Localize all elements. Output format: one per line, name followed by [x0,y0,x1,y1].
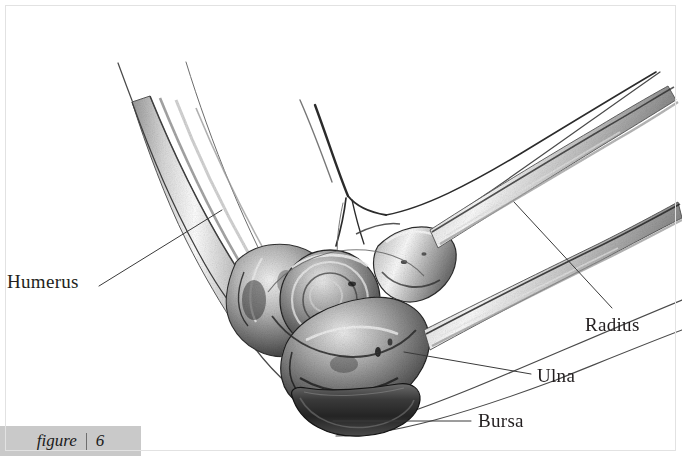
figure-caption-number: 6 [96,431,105,451]
figure-caption-band: figure 6 [0,426,141,456]
label-radius: Radius [585,315,640,334]
figure-caption-word: figure [37,431,77,451]
ulna-bone [281,202,682,415]
label-ulna: Ulna [537,366,575,385]
elbow-crease [300,72,656,262]
label-bursa: Bursa [478,411,524,430]
radius-bone [374,86,679,302]
elbow-anatomy-illustration [0,0,682,456]
label-humerus: Humerus [7,272,79,291]
figure-caption-divider [86,433,87,450]
figure-page: Humerus Radius Ulna Bursa figure 6 [0,0,682,456]
